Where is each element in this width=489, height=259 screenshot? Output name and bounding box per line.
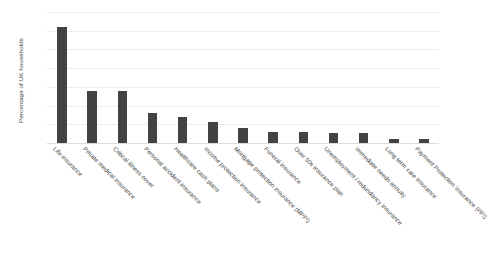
x-tick-label: Over 50s insurance plan [293, 145, 345, 197]
bar [57, 27, 67, 143]
bar [268, 132, 278, 143]
bar [178, 117, 188, 143]
bar [238, 128, 248, 143]
x-tick-label: Long term care insurance [384, 145, 439, 200]
x-tick-label: Personal accident insurance [143, 145, 203, 205]
bar [299, 132, 309, 143]
bar [359, 133, 369, 143]
bar [329, 133, 339, 143]
bar [208, 122, 218, 143]
y-axis-title: Percentage of UK households [17, 11, 24, 151]
bar [389, 139, 399, 143]
bar [118, 91, 128, 143]
x-tick-label: Immediate needs annuity [354, 145, 408, 199]
gridline [47, 143, 439, 144]
bar [419, 139, 429, 143]
x-tick-label: Income protection insurance [203, 145, 263, 205]
x-tick-label: Life insurance [52, 145, 84, 177]
bars-group [47, 12, 439, 143]
x-axis-tick-labels: Life insurancePrivate medical insuranceC… [47, 145, 439, 257]
bar [148, 113, 158, 143]
x-tick-label: Private medical insurance [82, 145, 137, 200]
bar [87, 91, 97, 143]
plot-area: 0%5%10%15%20%25%30%35% [47, 12, 439, 143]
